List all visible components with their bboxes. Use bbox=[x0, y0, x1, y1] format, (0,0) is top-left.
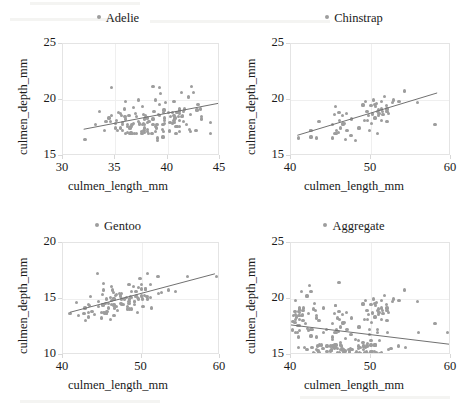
scatter-point bbox=[132, 122, 135, 125]
scatter-point bbox=[369, 339, 372, 342]
scatter-point bbox=[121, 123, 124, 126]
gridline-horizontal bbox=[63, 100, 218, 101]
scatter-point bbox=[104, 120, 107, 123]
scatter-point bbox=[189, 113, 192, 116]
x-axis-tick-label: 35 bbox=[94, 161, 134, 174]
scatter-point bbox=[357, 325, 360, 328]
scatter-point bbox=[366, 353, 369, 354]
scatter-point bbox=[373, 315, 376, 318]
scatter-point bbox=[373, 343, 376, 346]
legend-label: Chinstrap bbox=[334, 11, 383, 25]
scatter-point bbox=[383, 294, 386, 297]
scatter-point bbox=[182, 110, 185, 113]
scatter-point bbox=[333, 353, 336, 354]
y-axis-tick-label: 15 bbox=[28, 291, 56, 304]
legend-marker-icon bbox=[325, 15, 329, 19]
scatter-point bbox=[381, 312, 384, 315]
scatter-point bbox=[387, 112, 390, 115]
scatter-point bbox=[109, 318, 112, 321]
scatter-point bbox=[383, 95, 386, 98]
scatter-point bbox=[294, 299, 297, 302]
scatter-point bbox=[115, 305, 118, 308]
y-axis-tick-mark bbox=[58, 43, 62, 44]
scatter-point bbox=[144, 287, 147, 290]
scatter-point bbox=[112, 314, 115, 317]
scatter-point bbox=[345, 353, 348, 354]
scatter-point bbox=[341, 347, 344, 350]
scatter-point bbox=[141, 105, 144, 108]
scatter-point bbox=[309, 334, 312, 337]
scatter-point bbox=[305, 294, 308, 297]
scatter-point bbox=[75, 301, 78, 304]
scatter-point bbox=[378, 352, 381, 354]
scatter-point bbox=[314, 309, 317, 312]
scatter-point bbox=[385, 120, 388, 123]
scatter-point bbox=[321, 347, 324, 350]
scatter-point bbox=[116, 309, 119, 312]
scatter-point bbox=[364, 100, 367, 103]
x-axis-tick-label: 50 bbox=[350, 360, 390, 373]
scatter-point bbox=[376, 353, 379, 354]
scatter-point bbox=[417, 331, 420, 334]
scatter-point bbox=[397, 100, 400, 103]
scatter-point bbox=[97, 300, 100, 303]
scatter-point bbox=[392, 297, 395, 300]
scatter-point bbox=[403, 89, 406, 92]
scatter-point bbox=[163, 122, 166, 125]
scatter-point bbox=[365, 309, 368, 312]
scatter-point bbox=[309, 290, 312, 293]
y-axis-tick-mark bbox=[286, 298, 290, 299]
scatter-point bbox=[387, 311, 390, 314]
scatter-point bbox=[376, 331, 379, 334]
gridline-horizontal bbox=[291, 299, 449, 300]
scatter-point bbox=[380, 318, 383, 321]
y-axis-tick-label: 20 bbox=[28, 92, 56, 105]
scatter-point bbox=[377, 114, 380, 117]
y-axis-title: culmen_depth_mm bbox=[16, 58, 31, 155]
scatter-point bbox=[315, 136, 318, 139]
scatter-point bbox=[140, 287, 143, 290]
scatter-point bbox=[350, 117, 353, 120]
scatter-point bbox=[364, 299, 367, 302]
scatter-point bbox=[317, 120, 320, 123]
scatter-point bbox=[329, 349, 332, 352]
scatter-point bbox=[199, 107, 202, 110]
scatter-point bbox=[180, 91, 183, 94]
scatter-point bbox=[380, 100, 383, 103]
scatter-point bbox=[366, 119, 369, 122]
x-axis-tick-mark bbox=[450, 155, 451, 159]
scatter-point bbox=[376, 132, 379, 135]
scatter-point bbox=[156, 123, 159, 126]
scatter-point bbox=[333, 346, 336, 349]
x-axis-tick-label: 40 bbox=[147, 161, 187, 174]
scatter-point bbox=[159, 92, 162, 95]
scatter-point bbox=[116, 129, 119, 132]
scatter-point bbox=[190, 85, 193, 88]
scatter-point bbox=[341, 353, 344, 354]
scatter-point bbox=[154, 98, 157, 101]
scatter-point bbox=[335, 132, 338, 135]
scatter-point bbox=[178, 110, 181, 113]
scatter-point bbox=[157, 292, 160, 295]
scatter-point bbox=[186, 275, 189, 278]
scatter-point bbox=[130, 132, 133, 135]
panel-legend: Chinstrap bbox=[236, 10, 472, 25]
x-axis-tick-mark bbox=[114, 155, 115, 159]
scatter-point bbox=[136, 311, 139, 314]
scatter-point bbox=[304, 322, 307, 325]
scatter-point bbox=[367, 313, 370, 316]
scatter-point bbox=[385, 107, 388, 110]
scatter-point bbox=[341, 114, 344, 117]
scatter-point bbox=[141, 297, 144, 300]
y-axis-tick-mark bbox=[286, 99, 290, 100]
scatter-point bbox=[335, 331, 338, 334]
scatter-point bbox=[83, 312, 86, 315]
scatter-point bbox=[298, 329, 301, 332]
legend-label: Aggregate bbox=[332, 219, 384, 233]
scatter-point bbox=[337, 310, 340, 313]
scatter-point bbox=[83, 138, 86, 141]
scatter-point bbox=[350, 316, 353, 319]
scatter-point bbox=[392, 98, 395, 101]
x-axis-title: culmen_length_mm bbox=[0, 179, 236, 194]
scatter-point bbox=[100, 311, 103, 314]
